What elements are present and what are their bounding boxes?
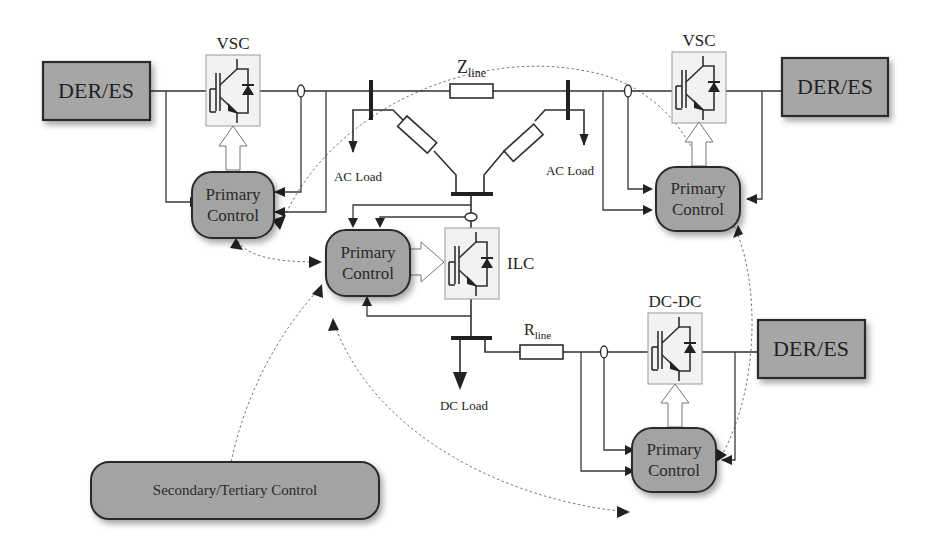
control-arrow-left (219, 126, 247, 170)
der-es-dc (758, 320, 865, 378)
control-arrow-ilc (410, 242, 444, 282)
der-es-left (43, 62, 150, 120)
secondary-tertiary-control (91, 462, 379, 519)
vsc-left-converter (206, 55, 260, 126)
vsc-right-converter (672, 52, 726, 123)
primary-control-dc (632, 428, 716, 492)
ilc-converter (445, 228, 499, 299)
microgrid-diagram: .lbl{position:absolute;color:#222;font-f… (0, 0, 929, 554)
primary-control-right (656, 167, 740, 231)
dcdc-converter (648, 313, 702, 384)
primary-control-center (326, 230, 410, 296)
der-es-right (782, 58, 888, 116)
control-arrow-dcdc (661, 384, 689, 427)
primary-control-left (192, 172, 274, 238)
